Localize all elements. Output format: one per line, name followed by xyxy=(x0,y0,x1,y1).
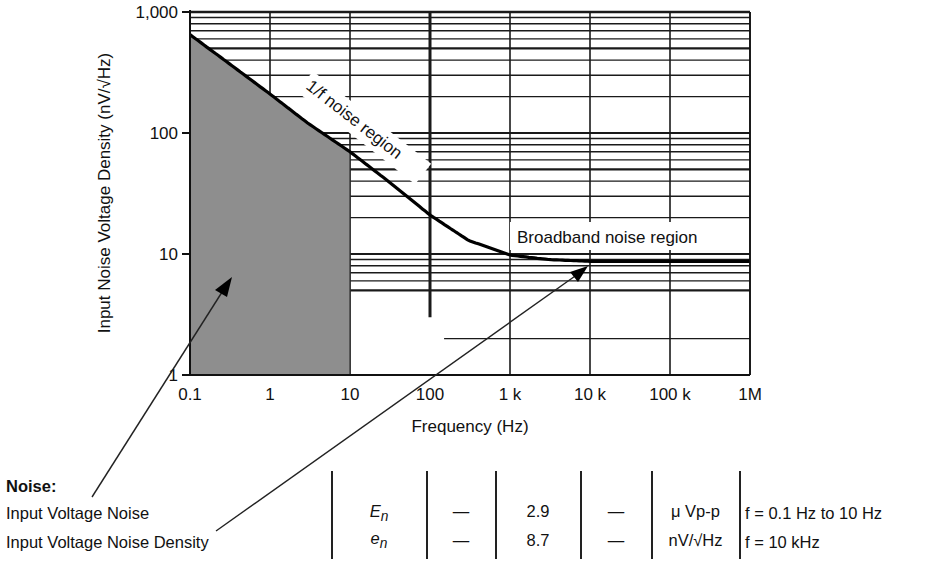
x-axis-title: Frequency (Hz) xyxy=(411,417,528,436)
arrowhead-icon xyxy=(570,266,588,282)
spec-row-2-symbol: en xyxy=(332,529,426,551)
spec-row-2-typ: 8.7 xyxy=(496,531,580,550)
spec-row-1-typ: 2.9 xyxy=(496,502,580,521)
spec-row-2-parameter: Input Voltage Noise Density xyxy=(6,531,209,553)
spec-row-2-condition: f = 10 kHz xyxy=(745,531,820,553)
spec-row-2-max: — xyxy=(581,531,651,550)
x-tick-label: 10 xyxy=(341,385,360,404)
x-tick-label: 1 xyxy=(265,385,274,404)
x-tick-label: 100 xyxy=(416,385,444,404)
spec-row-1-condition: f = 0.1 Hz to 10 Hz xyxy=(745,502,882,524)
y-axis-title: Input Noise Voltage Density (nV/√Hz) xyxy=(95,53,114,334)
x-tick-label: 100 k xyxy=(649,385,691,404)
spec-row-1-symbol: En xyxy=(332,502,426,524)
x-tick-label: 10 k xyxy=(574,385,607,404)
y-tick-label: 100 xyxy=(150,124,178,143)
spec-row-1-min: — xyxy=(427,502,495,521)
spec-heading: Noise: xyxy=(6,475,56,497)
y-tick-label: 1,000 xyxy=(135,3,178,22)
spec-row-1-unit: μ Vp-p xyxy=(652,502,739,521)
spec-row-2-unit: nV/√Hz xyxy=(652,531,739,550)
noise-density-chart: 1101001,0000.11101001 k10 k100 k1M 1/f n… xyxy=(0,0,929,574)
x-tick-label: 1 k xyxy=(499,385,522,404)
annotation-broadband-label: Broadband noise region xyxy=(517,228,698,247)
spec-row-2-min: — xyxy=(427,531,495,550)
x-tick-label: 0.1 xyxy=(178,385,202,404)
x-tick-label: 1M xyxy=(738,385,762,404)
spec-row-1-max: — xyxy=(581,502,651,521)
y-tick-label: 10 xyxy=(159,245,178,264)
column-divider xyxy=(739,471,741,559)
spec-row-1-parameter: Input Voltage Noise xyxy=(6,502,149,524)
chart-annotations: 1/f noise regionBroadband noise region xyxy=(297,71,746,250)
